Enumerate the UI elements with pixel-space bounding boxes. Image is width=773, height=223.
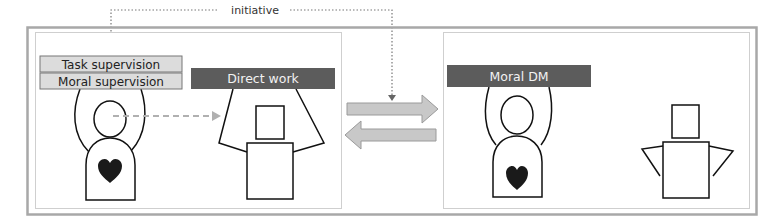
initiative-label: initiative xyxy=(231,4,279,17)
moral-supervision-box: Moral supervision xyxy=(40,73,182,89)
task-supervision-box: Task supervision xyxy=(40,56,182,72)
svg-text:Moral DM: Moral DM xyxy=(489,69,548,84)
diagram-canvas: initiative Task supervision Moral superv… xyxy=(0,0,773,223)
svg-text:Direct work: Direct work xyxy=(227,71,299,86)
direct-work-box: Direct work xyxy=(191,68,335,89)
svg-text:Moral supervision: Moral supervision xyxy=(58,75,164,89)
initiative-arrowhead-icon xyxy=(388,95,396,101)
svg-text:Task supervision: Task supervision xyxy=(61,58,160,72)
moral-dm-box: Moral DM xyxy=(447,65,591,87)
left-arrow xyxy=(345,121,436,149)
